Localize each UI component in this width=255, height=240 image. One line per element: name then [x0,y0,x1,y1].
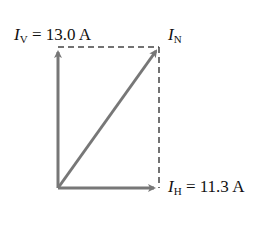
subscript: H [174,185,182,197]
label-horizontal-current: IH = 11.3 A [168,178,244,197]
value: = 13.0 A [32,25,91,44]
resultant-vector-arrow [58,51,156,188]
subscript: V [20,33,28,45]
label-vertical-current: IV = 13.0 A [14,26,91,45]
subscript: N [174,33,182,45]
value: = 11.3 A [186,177,245,196]
label-resultant-current: IN [168,26,182,45]
